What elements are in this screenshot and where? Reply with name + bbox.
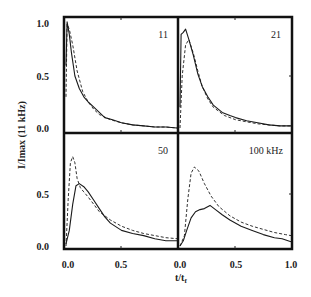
panel-label-50: 50	[158, 145, 168, 156]
curve-100-khz-dashed	[180, 167, 291, 246]
y-tick-bot-0: 0.0	[37, 241, 50, 252]
y-tick-top-0: 0.0	[37, 123, 50, 134]
curve-100-khz-solid	[180, 205, 291, 246]
x-axis-label: t/tf	[175, 272, 187, 285]
panel-label-21: 21	[271, 29, 281, 40]
y-tick-bot-05: 0.5	[37, 189, 50, 200]
plot-frame	[64, 17, 292, 249]
panel-label-100khz: 100 kHz	[249, 145, 284, 156]
panel-label-11: 11	[158, 29, 168, 40]
y-tick-top-1: 1.0	[37, 18, 50, 29]
x-tick-right-0: 0.0	[174, 259, 187, 270]
curve-21-solid	[180, 29, 291, 126]
curve-21-dashed	[180, 40, 291, 128]
x-tick-left-05: 0.5	[115, 259, 128, 270]
x-axis-label-sub: f	[184, 277, 187, 285]
curve-50-solid	[66, 184, 177, 244]
y-tick-top-05: 0.5	[37, 71, 50, 82]
x-tick-right-05: 0.5	[230, 259, 243, 270]
curve-50-dashed	[66, 157, 177, 246]
x-tick-left-0: 0.0	[62, 259, 75, 270]
figure: 11 21 50 100 kHz 1.0 0.5 0.0 0.5 0.0 0.0…	[0, 0, 311, 297]
x-tick-right-1: 1.0	[285, 259, 298, 270]
y-axis-label: I/Imax (11 kHz)	[16, 101, 28, 169]
